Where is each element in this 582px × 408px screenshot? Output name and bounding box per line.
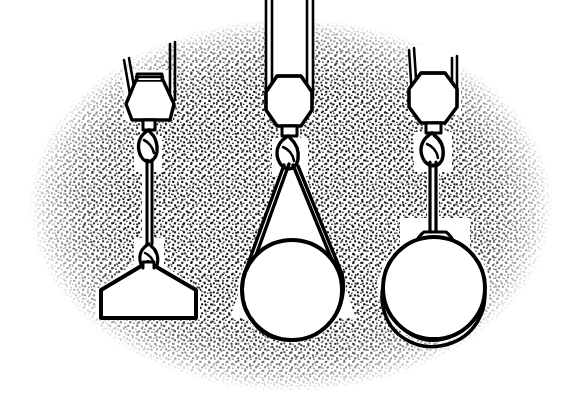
illustration-root xyxy=(0,0,582,408)
hook-shank-right xyxy=(426,123,441,133)
rigging-illustration xyxy=(0,0,582,408)
stipple-vignette xyxy=(0,0,582,408)
hook-shank-middle xyxy=(282,126,297,136)
hook-block-middle xyxy=(266,76,312,126)
load-cylinder-right xyxy=(383,237,485,339)
crane-hook-left xyxy=(138,130,157,162)
load-cylinder-middle xyxy=(242,240,342,340)
hook-block-right xyxy=(409,73,457,123)
